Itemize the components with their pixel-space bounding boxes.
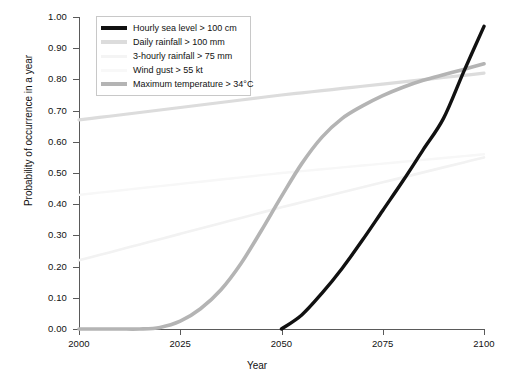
y-tick-label: 0.00	[31, 324, 67, 334]
x-tick	[484, 329, 485, 335]
legend-swatch-icon	[101, 69, 127, 72]
chart-legend: Hourly sea level > 100 cmDaily rainfall …	[96, 16, 251, 96]
legend-item-label: Maximum temperature > 34°C	[133, 79, 253, 89]
y-tick-label: 0.40	[31, 199, 67, 209]
legend-item[interactable]: Daily rainfall > 100 mm	[101, 35, 245, 49]
legend-item[interactable]: Wind gust > 55 kt	[101, 63, 245, 77]
legend-swatch-icon	[101, 26, 127, 30]
legend-item-label: Daily rainfall > 100 mm	[133, 37, 225, 47]
legend-item-label: Wind gust > 55 kt	[133, 65, 203, 75]
legend-swatch-icon	[101, 82, 127, 86]
x-axis-title: Year	[197, 360, 317, 371]
x-tick-label: 2075	[363, 339, 403, 349]
y-tick-label: 0.30	[31, 230, 67, 240]
legend-swatch-icon	[101, 40, 127, 44]
y-tick-label: 0.70	[31, 106, 67, 116]
y-tick-label: 0.20	[31, 262, 67, 272]
legend-swatch-icon	[101, 55, 127, 58]
legend-item[interactable]: 3-hourly rainfall > 75 mm	[101, 49, 245, 63]
x-tick	[383, 329, 384, 335]
x-tick-label: 2000	[59, 339, 99, 349]
legend-item[interactable]: Maximum temperature > 34°C	[101, 77, 245, 91]
legend-item-label: 3-hourly rainfall > 75 mm	[133, 51, 232, 61]
y-tick-label: 0.60	[31, 137, 67, 147]
y-tick-label: 1.00	[31, 12, 67, 22]
x-tick-label: 2025	[160, 339, 200, 349]
y-tick-label: 0.90	[31, 43, 67, 53]
series-line	[79, 154, 484, 195]
x-tick-label: 2050	[262, 339, 302, 349]
y-tick-label: 0.50	[31, 168, 67, 178]
series-line	[79, 64, 484, 329]
y-tick-label: 0.80	[31, 74, 67, 84]
x-tick-label: 2100	[464, 339, 504, 349]
y-tick-label: 0.10	[31, 293, 67, 303]
legend-item-label: Hourly sea level > 100 cm	[133, 23, 237, 33]
chart-container: Probability of occurrence in a year 0.00…	[0, 0, 514, 383]
legend-item[interactable]: Hourly sea level > 100 cm	[101, 21, 245, 35]
x-tick	[180, 329, 181, 335]
